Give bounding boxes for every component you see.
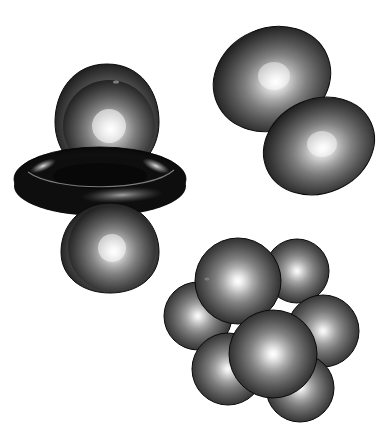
dz2-top-lobe-highlight xyxy=(92,109,126,143)
cluster-sphere-front xyxy=(229,310,317,398)
dz2-top-lobe-speck xyxy=(113,80,119,83)
dz2-bottom-lobe xyxy=(61,203,159,293)
p-upper-lobe-highlight xyxy=(258,62,290,90)
dz2-bottom-lobe-highlight xyxy=(98,234,126,262)
p-lower-lobe-highlight xyxy=(307,131,337,157)
cluster-sphere-speck xyxy=(205,278,210,281)
orbital-canvas xyxy=(0,0,392,431)
orbital-scene xyxy=(0,0,392,431)
